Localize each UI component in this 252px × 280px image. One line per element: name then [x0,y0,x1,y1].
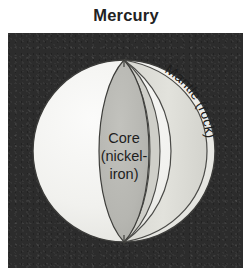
core-label-line2: (nickel- [101,148,148,164]
mercury-cutaway-svg: Mantle (rock) Core (nickel- iron) [8,33,243,268]
core-label-line1: Core [108,130,139,146]
core-label-line3: iron) [109,166,138,182]
page-title: Mercury [0,5,252,25]
diagram-panel: Mantle (rock) Core (nickel- iron) [8,33,243,268]
